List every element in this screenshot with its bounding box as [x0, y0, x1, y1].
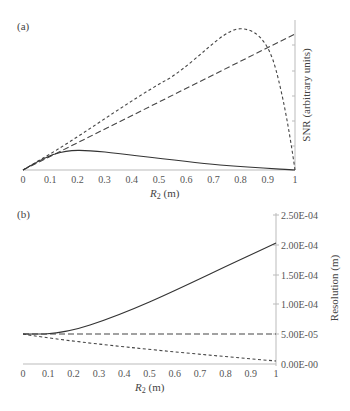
svg-text:0.8: 0.8 [219, 368, 232, 379]
panel-a-x-axis-label: R2 (m) [149, 187, 180, 201]
svg-text:0.5: 0.5 [153, 174, 166, 185]
svg-text:0.7: 0.7 [194, 368, 207, 379]
svg-text:1: 1 [274, 368, 279, 379]
svg-text:0.8: 0.8 [234, 174, 247, 185]
figure: (a) 0 0.1 0.2 0.3 0.4 0.5 0.6 0.7 0.8 0.… [0, 0, 350, 411]
svg-text:0: 0 [21, 174, 26, 185]
svg-text:0.5: 0.5 [143, 368, 156, 379]
svg-text:2.50E-04: 2.50E-04 [281, 210, 318, 221]
panel-b-solid-series [23, 243, 276, 334]
panel-b-x-axis-label: R2 (m) [134, 381, 165, 395]
svg-text:0.3: 0.3 [93, 368, 106, 379]
svg-text:0.6: 0.6 [169, 368, 182, 379]
svg-text:5.00E-05: 5.00E-05 [281, 329, 318, 340]
panel-b: (b) 0.00E-00 5.00E-05 1.00E-04 1.50E-04 … [17, 208, 341, 395]
panel-a-short-dash-series [23, 29, 295, 170]
svg-text:0.4: 0.4 [126, 174, 139, 185]
svg-text:0.9: 0.9 [244, 368, 257, 379]
panel-a: (a) 0 0.1 0.2 0.3 0.4 0.5 0.6 0.7 0.8 0.… [17, 20, 313, 201]
svg-text:0.1: 0.1 [44, 174, 57, 185]
svg-text:1: 1 [293, 174, 298, 185]
svg-text:0.3: 0.3 [98, 174, 111, 185]
panel-b-short-dash-series [23, 334, 276, 361]
svg-text:0.1: 0.1 [42, 368, 55, 379]
svg-text:0.4: 0.4 [118, 368, 131, 379]
svg-text:0: 0 [21, 368, 26, 379]
panel-b-y-tick-labels: 0.00E-00 5.00E-05 1.00E-04 1.50E-04 2.00… [281, 210, 318, 370]
panel-b-y-axis-label: Resolution (m) [328, 255, 341, 322]
panel-a-long-dash-series [23, 34, 295, 170]
svg-text:0.2: 0.2 [67, 368, 80, 379]
svg-text:0.9: 0.9 [262, 174, 275, 185]
panel-a-y-axis-label: SNR (arbitrary units) [300, 48, 313, 142]
svg-text:1.00E-04: 1.00E-04 [281, 299, 318, 310]
svg-text:2.00E-04: 2.00E-04 [281, 240, 318, 251]
panel-a-solid-series [23, 150, 295, 170]
panel-b-label: (b) [17, 208, 30, 221]
svg-text:0.7: 0.7 [207, 174, 220, 185]
panel-b-x-tick-labels: 0 0.1 0.2 0.3 0.4 0.5 0.6 0.7 0.8 0.9 1 [21, 368, 279, 379]
svg-text:0.2: 0.2 [71, 174, 84, 185]
svg-text:0.6: 0.6 [180, 174, 193, 185]
panel-a-x-tick-labels: 0 0.1 0.2 0.3 0.4 0.5 0.6 0.7 0.8 0.9 1 [21, 174, 298, 185]
svg-text:1.50E-04: 1.50E-04 [281, 270, 318, 281]
svg-text:0.00E-00: 0.00E-00 [281, 359, 318, 370]
panel-a-label: (a) [17, 20, 30, 33]
